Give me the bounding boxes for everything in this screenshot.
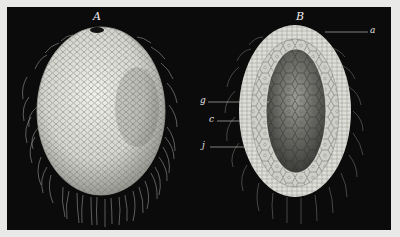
part-label-c: c [209,115,214,124]
illustration-plate: A B a g c j [7,7,391,230]
apical-pore [90,27,104,33]
figure-label-a: A [93,11,101,22]
specimen-a [23,27,178,227]
specimen-b [225,25,363,224]
part-label-j: j [202,141,205,150]
part-label-g: g [200,96,206,105]
figure-label-b: B [296,11,304,22]
part-label-a: a [370,26,375,35]
specimen-drawings [7,7,391,230]
